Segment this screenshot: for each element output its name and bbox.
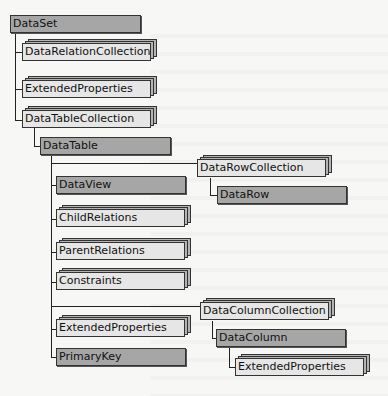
node-column-extendedproperties: ExtendedProperties: [235, 358, 364, 376]
connector-to-datarowcollection: [51, 163, 198, 164]
node-constraints: Constraints: [56, 272, 185, 290]
connector-datatablecollection-trunk: [34, 128, 35, 146]
connector-dataset-trunk: [15, 32, 16, 120]
node-parentrelations: ParentRelations: [56, 242, 185, 260]
node-datarelationcollection: DataRelationCollection: [22, 43, 151, 61]
connector-datacolumncollection-trunk: [212, 321, 213, 338]
node-dataview: DataView: [56, 176, 186, 194]
connector-to-datacolumncollection: [51, 306, 201, 307]
node-dataset-extendedproperties: ExtendedProperties: [22, 80, 151, 98]
connector-datacolumn-trunk: [229, 347, 230, 367]
node-datarow: DataRow: [217, 186, 347, 204]
node-datacolumncollection: DataColumnCollection: [200, 302, 329, 320]
node-datatablecollection: DataTableCollection: [22, 110, 151, 128]
node-datatable: DataTable: [40, 137, 171, 155]
node-primarykey: PrimaryKey: [56, 348, 186, 366]
node-table-extendedproperties: ExtendedProperties: [56, 319, 185, 337]
node-dataset: DataSet: [10, 15, 141, 33]
connector-datarowcollection-trunk: [210, 178, 211, 195]
node-childrelations: ChildRelations: [56, 209, 185, 227]
node-datarowcollection: DataRowCollection: [197, 159, 326, 177]
node-datacolumn: DataColumn: [216, 329, 346, 347]
